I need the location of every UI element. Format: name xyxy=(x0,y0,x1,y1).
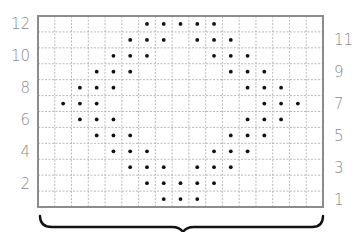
stitch-dot xyxy=(145,181,149,185)
stitch-dot xyxy=(145,22,149,26)
stitch-dot xyxy=(145,38,149,42)
stitch-dot xyxy=(229,149,233,153)
stitch-dot xyxy=(61,102,65,106)
stitch-dot xyxy=(162,165,166,169)
stitch-dot xyxy=(112,54,116,58)
stitch-dot xyxy=(212,38,216,42)
stitch-dot xyxy=(162,38,166,42)
stitch-dot xyxy=(262,86,266,90)
bottom-brace-icon xyxy=(40,216,323,232)
stitch-dot xyxy=(179,181,183,185)
stitch-dot xyxy=(145,149,149,153)
stitch-dot xyxy=(78,102,82,106)
stitch-dot xyxy=(128,165,132,169)
stitch-dot xyxy=(279,86,283,90)
stitch-dot xyxy=(112,70,116,74)
stitch-dot xyxy=(212,181,216,185)
row-number-label: 7 xyxy=(334,95,344,113)
row-number-label: 1 xyxy=(334,191,344,209)
stitch-dot xyxy=(112,118,116,122)
stitch-dot xyxy=(128,38,132,42)
stitch-dot xyxy=(212,54,216,58)
row-number-label: 9 xyxy=(334,63,344,81)
stitch-dot xyxy=(78,118,82,122)
stitch-dot xyxy=(95,70,99,74)
knitting-chart: 12108642 1197531 xyxy=(0,0,355,232)
stitch-dot xyxy=(229,133,233,137)
stitch-dot xyxy=(229,54,233,58)
row-number-label: 8 xyxy=(20,79,30,97)
stitch-dot xyxy=(128,70,132,74)
stitch-dot xyxy=(229,38,233,42)
stitch-dot xyxy=(246,149,250,153)
stitch-dot xyxy=(229,70,233,74)
stitch-dot xyxy=(145,54,149,58)
stitch-dot xyxy=(162,197,166,201)
row-number-label: 11 xyxy=(334,31,353,49)
stitch-dot xyxy=(179,197,183,201)
row-number-label: 3 xyxy=(334,159,344,177)
stitch-dot xyxy=(112,86,116,90)
stitch-dot xyxy=(262,133,266,137)
stitch-dot xyxy=(195,22,199,26)
stitch-dot xyxy=(145,165,149,169)
grid-lines xyxy=(38,16,323,207)
stitch-dot xyxy=(246,133,250,137)
stitch-dot xyxy=(212,149,216,153)
row-number-label: 4 xyxy=(20,143,30,161)
stitch-dot xyxy=(279,118,283,122)
stitch-dot xyxy=(246,86,250,90)
row-number-label: 6 xyxy=(20,111,30,129)
stitch-dot xyxy=(95,86,99,90)
stitch-dot xyxy=(296,102,300,106)
stitch-dot xyxy=(195,165,199,169)
stitch-dot xyxy=(229,165,233,169)
row-number-label: 12 xyxy=(11,15,30,33)
stitch-dot xyxy=(128,149,132,153)
stitch-dot xyxy=(195,38,199,42)
stitch-dot xyxy=(95,133,99,137)
stitch-dot xyxy=(112,133,116,137)
stitch-dot xyxy=(195,197,199,201)
row-labels-left: 12108642 xyxy=(11,15,30,192)
row-number-label: 2 xyxy=(20,175,30,193)
stitch-dot xyxy=(78,86,82,90)
stitch-dot xyxy=(212,22,216,26)
stitch-dot xyxy=(262,102,266,106)
stitch-dot xyxy=(279,102,283,106)
stitch-dot xyxy=(246,54,250,58)
stitch-dot xyxy=(195,181,199,185)
stitch-dot xyxy=(95,102,99,106)
stitch-dot xyxy=(128,133,132,137)
stitch-dot xyxy=(95,118,99,122)
stitch-dot xyxy=(128,54,132,58)
row-number-label: 5 xyxy=(334,127,344,145)
stitch-dot xyxy=(262,70,266,74)
stitch-dot xyxy=(162,181,166,185)
row-number-label: 10 xyxy=(11,47,30,65)
stitch-dot xyxy=(179,22,183,26)
stitch-dot xyxy=(112,149,116,153)
stitch-dot xyxy=(246,70,250,74)
stitch-dot xyxy=(246,118,250,122)
stitch-dot xyxy=(262,118,266,122)
stitch-dot xyxy=(212,165,216,169)
row-labels-right: 1197531 xyxy=(334,31,353,208)
stitch-dot xyxy=(162,22,166,26)
